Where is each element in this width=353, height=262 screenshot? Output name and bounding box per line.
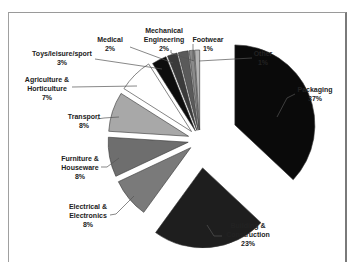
label-mechanical-name1: Mechanical (145, 27, 183, 34)
label-mechanical-name2: Engineering (144, 36, 184, 44)
label-medical-pct: 2% (105, 45, 116, 52)
label-transport-name: Transport (68, 113, 101, 121)
label-building-name2: Construction (226, 231, 270, 238)
label-footwear-name: Footwear (192, 36, 223, 43)
label-toys-name: Toys/leisure/sport (32, 50, 92, 58)
leader-line-toys (95, 59, 162, 69)
label-furniture-name2: Houseware (61, 164, 98, 171)
label-furniture-name1: Furniture & (61, 155, 99, 162)
label-agriculture-name2: Horticulture (27, 85, 67, 92)
label-transport-pct: 8% (79, 122, 90, 129)
label-electrical-name2: Electronics (69, 212, 107, 219)
label-other-name: Other (254, 50, 273, 57)
label-building-name1: Building & (231, 222, 266, 230)
label-electrical-pct: 8% (83, 221, 94, 228)
label-furniture-pct: 8% (75, 173, 86, 180)
label-packaging-pct: 37% (308, 95, 323, 102)
label-agriculture-pct: 7% (42, 94, 53, 101)
label-agriculture-name1: Agriculture & (25, 76, 69, 84)
label-footwear-pct: 1% (203, 45, 214, 52)
label-electrical-name1: Electrical & (69, 203, 107, 210)
label-building-pct: 23% (241, 240, 256, 247)
pie-slices (108, 45, 315, 248)
label-mechanical-pct: 2% (159, 45, 170, 52)
label-other-pct: 1% (258, 59, 269, 66)
label-packaging-name: Packaging (297, 86, 332, 94)
label-toys-pct: 3% (57, 59, 68, 66)
pie-slice-packaging (235, 45, 315, 180)
label-medical-name: Medical (97, 36, 123, 43)
